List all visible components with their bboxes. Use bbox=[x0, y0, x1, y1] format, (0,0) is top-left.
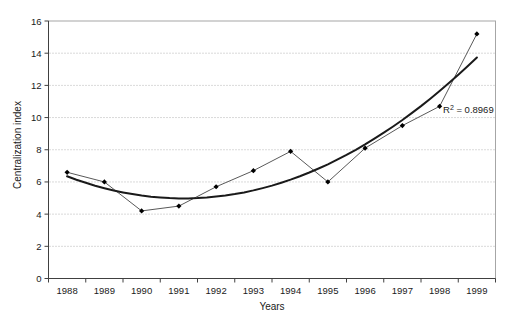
x-tick-label: 1989 bbox=[94, 285, 115, 296]
y-tick-label: 16 bbox=[31, 16, 42, 27]
x-tick-label: 1994 bbox=[280, 285, 301, 296]
chart-canvas: 0246810121416198819891990199119921993199… bbox=[0, 0, 512, 329]
y-tick-label: 2 bbox=[36, 241, 41, 252]
y-axis-title: Centralization index bbox=[12, 101, 23, 189]
x-tick-label: 1990 bbox=[131, 285, 152, 296]
y-tick-label: 14 bbox=[31, 48, 42, 59]
x-tick-label: 1998 bbox=[429, 285, 450, 296]
chart: 0246810121416198819891990199119921993199… bbox=[0, 0, 512, 329]
x-tick-label: 1988 bbox=[57, 285, 78, 296]
y-tick-label: 12 bbox=[31, 80, 42, 91]
x-axis-title: Years bbox=[259, 301, 284, 312]
x-tick-label: 1999 bbox=[466, 285, 487, 296]
y-tick-label: 6 bbox=[36, 176, 41, 187]
x-tick-label: 1997 bbox=[392, 285, 413, 296]
x-tick-label: 1992 bbox=[206, 285, 227, 296]
y-tick-label: 10 bbox=[31, 112, 42, 123]
y-tick-label: 8 bbox=[36, 144, 41, 155]
y-tick-label: 4 bbox=[36, 209, 41, 220]
x-tick-label: 1995 bbox=[317, 285, 338, 296]
y-tick-label: 0 bbox=[36, 273, 41, 284]
x-tick-label: 1996 bbox=[355, 285, 376, 296]
x-tick-label: 1993 bbox=[243, 285, 264, 296]
x-tick-label: 1991 bbox=[168, 285, 189, 296]
